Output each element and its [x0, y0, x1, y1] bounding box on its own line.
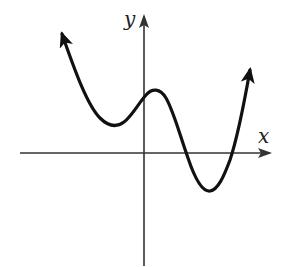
function-graph: x y [0, 0, 284, 267]
y-axis-label: y [123, 7, 136, 31]
polynomial-curve [62, 34, 250, 191]
graph-canvas: x y [0, 0, 284, 267]
x-axis-label: x [258, 124, 269, 148]
